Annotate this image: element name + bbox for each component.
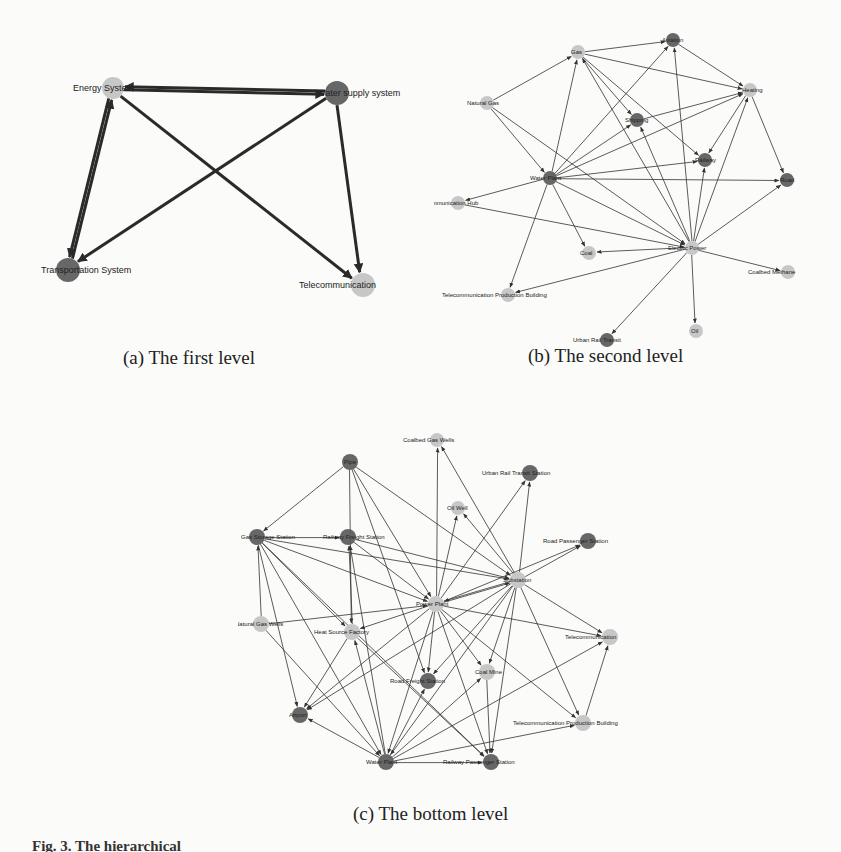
node-label: Airport: [289, 712, 307, 718]
edge-waterplant-to-shipping: [556, 125, 631, 175]
node-transport: Transportation System: [41, 258, 131, 282]
edge-waterplant-to-airport: [308, 719, 379, 758]
node-label: Communication Hub: [424, 200, 479, 206]
edge-pipe-to-gasstor: [264, 467, 344, 531]
node-label: Heating: [742, 87, 763, 93]
node-label: Railway: [695, 157, 716, 163]
edge-substation-to-oilwell: [464, 514, 514, 574]
edge-powerplant-to-roadpass: [444, 545, 580, 602]
edge-telprod-to-telecom: [586, 646, 608, 716]
node-label: Shipping: [625, 117, 648, 123]
edge-electric-to-heating: [695, 98, 748, 242]
node-label: Coal: [580, 250, 592, 256]
edge-waterplant-to-commhub: [466, 179, 543, 200]
node-label: Water Plant: [530, 175, 561, 181]
edge-gas-to-shipping: [582, 58, 631, 115]
node-powerplant: Power Plant: [416, 596, 449, 612]
edge-waterplant-to-railfr: [350, 546, 385, 754]
node-telprod: Telecommunication Production Building: [442, 288, 547, 302]
edge-water-to-transport: [78, 98, 326, 261]
node-label: Telecommunication: [565, 634, 616, 640]
node-shipping: Shipping: [625, 113, 648, 127]
node-label: Heat Source Factory: [314, 629, 369, 635]
node-telecom: Telecommunication: [565, 629, 618, 645]
graph-second-level: GasAviationNatural GasHeatingShippingRai…: [424, 33, 796, 347]
graph-first-level: Energy SystemWater supply systemTranspor…: [41, 77, 400, 297]
node-road: Road: [780, 173, 794, 187]
node-label: Water supply system: [317, 88, 400, 98]
node-label: Natural Gas: [467, 100, 499, 106]
node-heating: Heating: [742, 83, 763, 97]
edge-transport-to-energy: [72, 100, 111, 259]
node-label: Water Plant: [366, 759, 397, 765]
edge-powerplant-to-oilwell: [438, 516, 456, 596]
edge-electric-to-oil: [692, 255, 695, 323]
node-label: Natural Gas Wells: [235, 621, 283, 627]
edge-railfr-to-substation: [356, 540, 510, 579]
edge-substation-to-urst: [520, 482, 530, 572]
node-label: Coal Mine: [475, 669, 503, 675]
node-label: Telecommunication: [299, 280, 376, 290]
node-oilwell: Oil Well: [447, 501, 468, 515]
edge-ngwells-to-waterplant: [266, 630, 380, 755]
edge-waterplant-to-electric: [556, 182, 685, 245]
edge-waterplant-to-gas: [552, 60, 577, 171]
node-label: Road Freight Station: [390, 678, 445, 684]
node-label: Telecommunication Production Building: [513, 720, 618, 726]
edge-heating-to-road: [752, 97, 783, 173]
node-telecom: Telecommunication: [299, 273, 376, 297]
edge-naturalgas-to-electric: [492, 108, 685, 244]
node-coal: Coal: [580, 246, 596, 260]
edge-shipping-to-heating: [644, 93, 743, 119]
node-label: Energy System: [73, 83, 134, 93]
edge-waterplant-to-railway: [557, 162, 697, 178]
edge-powerplant-to-railpass: [438, 612, 487, 754]
node-label: Coalbed Gas Wells: [403, 437, 454, 443]
edge-gas-to-railway: [583, 57, 699, 155]
node-label: Road Passenger Station: [543, 538, 608, 544]
edge-railfr-to-powerplant: [354, 542, 429, 599]
node-label: Telecommunication Production Building: [442, 292, 547, 298]
edge-waterplant-to-roadfr: [390, 689, 424, 755]
node-coalbed: Coalbed Methane: [748, 265, 796, 279]
node-label: Coalbed Methane: [748, 269, 796, 275]
edge-pipe-to-powerplant: [354, 469, 431, 596]
node-waterplant: Water Plant: [530, 171, 561, 185]
edge-gasstor-to-waterplant: [261, 544, 382, 754]
caption-second-level: (b) The second level: [528, 345, 683, 367]
node-label: Substation: [503, 577, 531, 583]
node-oil: Oil: [689, 324, 703, 338]
edge-substation-to-powerplant: [445, 582, 511, 601]
caption-bottom-level: (c) The bottom level: [353, 803, 508, 825]
node-cbwells: Coalbed Gas Wells: [403, 433, 454, 447]
edge-powerplant-to-roadfr: [428, 612, 434, 672]
edge-gas-to-heating: [585, 54, 742, 89]
edge-substation-to-telecom: [525, 585, 603, 633]
edge-commhub-to-electric: [465, 205, 684, 247]
edge-waterplant-to-road: [557, 179, 779, 181]
edge-gasstor-to-substation: [265, 539, 509, 579]
edge-electric-to-road: [698, 185, 781, 244]
edge-water-to-telecom: [337, 105, 360, 272]
node-airport: Airport: [289, 707, 308, 723]
node-gas: Gas: [571, 45, 585, 59]
node-label: Oil: [691, 328, 698, 334]
edge-energy-to-telecom: [121, 96, 352, 278]
node-railpass: Railway Passenger Station: [443, 754, 515, 770]
node-telprod: Telecommunication Production Building: [513, 715, 618, 731]
node-label: Urban Rail Transit Station: [482, 470, 550, 476]
node-label: Gas: [571, 49, 582, 55]
edge-naturalgas-to-gas: [493, 56, 571, 100]
node-label: Gas Storage Station: [241, 534, 295, 540]
edge-waterplant-to-heating: [557, 94, 743, 176]
edge-electric-to-coalbed: [699, 250, 781, 270]
node-label: Power Plant: [416, 601, 449, 607]
node-label: Oil Well: [447, 505, 468, 511]
edge-gasstor-to-powerplant: [264, 540, 427, 601]
node-urst: Urban Rail Transit Station: [482, 465, 550, 481]
node-label: Aviation: [662, 37, 683, 43]
edge-substation-to-airport: [307, 584, 511, 710]
edge-aviation-to-heating: [679, 44, 744, 86]
edge-electric-to-telprod: [516, 249, 686, 292]
